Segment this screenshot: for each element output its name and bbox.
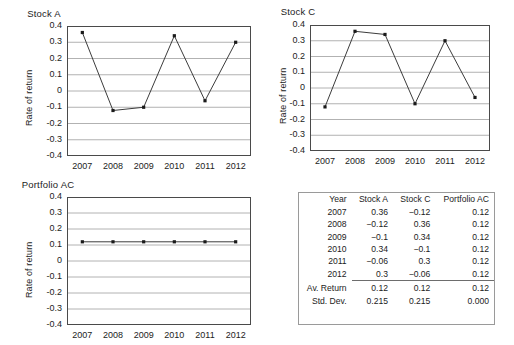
- cell-stock-c: 0.3: [393, 256, 435, 268]
- returns-data-table: Year Stock A Stock C Portfolio AC 20070.…: [298, 192, 495, 325]
- cell-stock-a: 0.215: [352, 295, 393, 308]
- y-tick-label: -0.4: [27, 150, 62, 160]
- x-tick-label: 2012: [219, 330, 253, 340]
- y-tick-label: 0.4: [27, 20, 62, 30]
- y-tick-label: 0.1: [27, 239, 62, 249]
- cell-year: 2010: [299, 243, 352, 255]
- cell-stock-a: 0.36: [352, 206, 393, 218]
- x-tick-label: 2008: [338, 156, 372, 166]
- table: Year Stock A Stock C Portfolio AC 20070.…: [299, 193, 494, 308]
- y-tick-label: 0.4: [270, 19, 305, 29]
- chart-panel-portfolio-ac: Portfolio AC Rate of return 0.40.30.20.1…: [0, 172, 260, 345]
- chart-title-stock-c: Stock C: [170, 6, 426, 17]
- cell-portfolio-ac: 0.12: [435, 206, 494, 218]
- cell-portfolio-ac: 0.12: [435, 256, 494, 268]
- y-tick-label: -0.4: [27, 319, 62, 329]
- x-tick-label: 2008: [96, 161, 130, 171]
- x-tick-label: 2007: [65, 161, 99, 171]
- y-tick-label: 0: [27, 85, 62, 95]
- cell-summary-label: Std. Dev.: [299, 295, 352, 308]
- y-tick-label: 0: [270, 82, 305, 92]
- cell-summary-label: Av. Return: [299, 281, 352, 295]
- x-tick-label: 2011: [188, 161, 222, 171]
- x-tick-label: 2010: [157, 330, 191, 340]
- y-tick-label: -0.1: [27, 271, 62, 281]
- plot-area-stock-a: [67, 26, 251, 156]
- cell-stock-c: −0.06: [393, 268, 435, 281]
- column-header-stock-a: Stock A: [352, 193, 393, 206]
- x-tick-label: 2011: [188, 330, 222, 340]
- x-tick-label: 2007: [65, 330, 99, 340]
- cell-portfolio-ac: 0.000: [435, 295, 494, 308]
- y-tick-label: -0.1: [27, 101, 62, 111]
- cell-stock-a: 0.34: [352, 243, 393, 255]
- cell-year: 2009: [299, 231, 352, 243]
- x-tick-label: 2012: [458, 156, 492, 166]
- plot-area-portfolio-ac: [67, 197, 251, 325]
- y-tick-label: -0.1: [270, 98, 305, 108]
- cell-portfolio-ac: 0.12: [435, 243, 494, 255]
- y-tick-label: -0.3: [27, 134, 62, 144]
- y-tick-label: 0.2: [27, 223, 62, 233]
- cell-stock-a: 0.12: [352, 281, 393, 295]
- table-row: 20070.36−0.120.12: [299, 206, 494, 218]
- x-tick-label: 2010: [157, 161, 191, 171]
- y-tick-label: 0.1: [270, 66, 305, 76]
- cell-year: 2008: [299, 219, 352, 231]
- x-tick-label: 2008: [96, 330, 130, 340]
- y-tick-label: 0.4: [27, 191, 62, 201]
- x-tick-label: 2009: [127, 330, 161, 340]
- table-body: 20070.36−0.120.122008−0.120.360.122009−0…: [299, 206, 494, 308]
- cell-stock-a: −0.1: [352, 231, 393, 243]
- cell-portfolio-ac: 0.12: [435, 231, 494, 243]
- x-tick-label: 2011: [428, 156, 462, 166]
- table-row: 2008−0.120.360.12: [299, 219, 494, 231]
- y-tick-label: -0.2: [27, 118, 62, 128]
- table-summary-row: Std. Dev.0.2150.2150.000: [299, 295, 494, 308]
- y-tick-label: 0: [27, 255, 62, 265]
- y-tick-label: 0.2: [27, 53, 62, 63]
- x-tick-label: 2009: [127, 161, 161, 171]
- y-tick-label: -0.2: [270, 114, 305, 124]
- chart-title-portfolio-ac: Portfolio AC: [0, 179, 178, 190]
- table-header-row: Year Stock A Stock C Portfolio AC: [299, 193, 494, 206]
- cell-portfolio-ac: 0.12: [435, 219, 494, 231]
- y-tick-label: 0.3: [270, 35, 305, 45]
- cell-stock-c: −0.12: [393, 206, 435, 218]
- cell-portfolio-ac: 0.12: [435, 281, 494, 295]
- x-tick-label: 2010: [398, 156, 432, 166]
- y-tick-label: 0.3: [27, 36, 62, 46]
- cell-stock-a: 0.3: [352, 268, 393, 281]
- cell-stock-c: 0.215: [393, 295, 435, 308]
- y-tick-label: 0.3: [27, 207, 62, 217]
- cell-stock-c: 0.36: [393, 219, 435, 231]
- cell-stock-c: 0.34: [393, 231, 435, 243]
- cell-stock-c: −0.1: [393, 243, 435, 255]
- x-tick-label: 2012: [219, 161, 253, 171]
- table-summary-row: Av. Return0.120.120.12: [299, 281, 494, 295]
- y-tick-label: -0.4: [270, 145, 305, 155]
- column-header-portfolio-ac: Portfolio AC: [435, 193, 494, 206]
- x-tick-label: 2009: [368, 156, 402, 166]
- cell-year: 2012: [299, 268, 352, 281]
- cell-stock-a: −0.12: [352, 219, 393, 231]
- table-row: 20120.3−0.060.12: [299, 268, 494, 281]
- column-header-year: Year: [299, 193, 352, 206]
- column-header-stock-c: Stock C: [393, 193, 435, 206]
- chart-panel-stock-c: Stock C Rate of return 0.40.30.20.10-0.1…: [258, 0, 514, 172]
- y-tick-label: -0.2: [27, 287, 62, 297]
- chart-title-stock-a: Stock A: [0, 8, 174, 19]
- table-row: 2011−0.060.30.12: [299, 256, 494, 268]
- cell-year: 2011: [299, 256, 352, 268]
- table-row: 2009−0.10.340.12: [299, 231, 494, 243]
- cell-year: 2007: [299, 206, 352, 218]
- y-tick-label: 0.1: [27, 69, 62, 79]
- chart-panel-stock-a: Stock A Rate of return 0.40.30.20.10-0.1…: [0, 0, 260, 172]
- table-row: 20100.34−0.10.12: [299, 243, 494, 255]
- cell-portfolio-ac: 0.12: [435, 268, 494, 281]
- x-tick-label: 2007: [308, 156, 342, 166]
- y-tick-label: -0.3: [270, 129, 305, 139]
- cell-stock-c: 0.12: [393, 281, 435, 295]
- plot-area-stock-c: [310, 25, 490, 151]
- y-tick-label: 0.2: [270, 51, 305, 61]
